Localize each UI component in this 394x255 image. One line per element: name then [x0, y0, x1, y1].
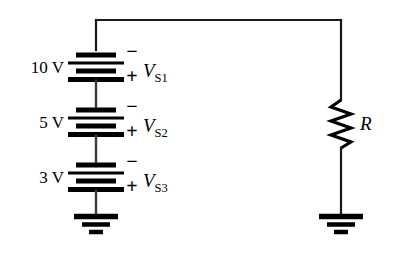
voltage-source-3: 3 V − + VS3: [39, 150, 168, 215]
source3-value-label: 3 V: [39, 168, 64, 187]
resistor: R: [331, 100, 372, 216]
circuit-diagram: 10 V − + VS1 5 V − + VS2 3 V −: [0, 0, 394, 255]
source2-value-label: 5 V: [39, 113, 64, 132]
source1-minus-sign: −: [126, 40, 137, 62]
resistor-label: R: [359, 113, 372, 134]
source2-plus-sign: +: [126, 120, 137, 142]
voltage-source-2: 5 V − + VS2: [39, 95, 168, 165]
left-ground: [74, 217, 118, 233]
source1-symbol-subscript: S1: [155, 71, 168, 85]
source1-symbol: VS1: [143, 60, 168, 85]
source2-minus-sign: −: [126, 95, 137, 117]
source3-symbol-subscript: S3: [155, 181, 168, 195]
source3-symbol: VS3: [143, 170, 168, 195]
circuit-svg: 10 V − + VS1 5 V − + VS2 3 V −: [0, 0, 394, 255]
right-ground: [319, 217, 363, 233]
voltage-source-1: 10 V − + VS1: [31, 40, 168, 110]
source1-plus-sign: +: [126, 65, 137, 87]
source3-plus-sign: +: [126, 175, 137, 197]
source3-minus-sign: −: [126, 150, 137, 172]
source2-symbol: VS2: [143, 115, 168, 140]
source1-value-label: 10 V: [31, 58, 65, 77]
resistor-zigzag: [331, 100, 351, 148]
source2-symbol-subscript: S2: [155, 126, 168, 140]
